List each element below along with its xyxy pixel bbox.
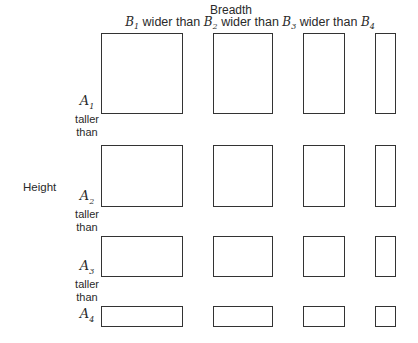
box-a2-b3 xyxy=(303,145,345,207)
box-a4-b2 xyxy=(213,306,273,327)
box-a4-b3 xyxy=(303,306,345,327)
box-a1-b4 xyxy=(375,33,396,114)
box-a4-b1 xyxy=(101,306,183,327)
b1-label: B1 xyxy=(125,15,139,29)
b2-label: B2 xyxy=(204,15,218,29)
box-a3-b1 xyxy=(101,236,183,277)
box-a3-b4 xyxy=(375,236,396,277)
box-a2-b2 xyxy=(213,145,273,207)
b4-label: B4 xyxy=(361,15,375,29)
box-a1-b1 xyxy=(101,33,183,114)
box-a2-b4 xyxy=(375,145,396,207)
box-a4-b4 xyxy=(375,306,396,327)
box-a1-b2 xyxy=(213,33,273,114)
box-a3-b2 xyxy=(213,236,273,277)
breadth-ordering: B1 wider than B2 wider than B3 wider tha… xyxy=(125,15,375,31)
b3-label: B3 xyxy=(282,15,296,29)
box-a2-b1 xyxy=(101,145,183,207)
box-a1-b3 xyxy=(303,33,345,114)
height-label: Height xyxy=(23,181,56,193)
box-a3-b3 xyxy=(303,236,345,277)
